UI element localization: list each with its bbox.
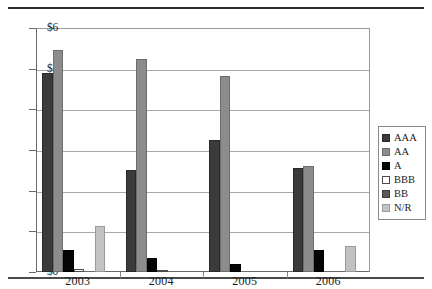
legend-swatch-icon [382,190,390,198]
legend-item-label: BBB [394,175,415,186]
bar-aa-2004 [136,59,147,273]
y-axis-tick [29,150,36,151]
x-axis-tick-label: 2006 [287,275,371,287]
x-axis-tick-label: 2004 [120,275,204,287]
legend-item-label: AAA [394,133,417,144]
legend: AAAAAABBBBBN/R [378,126,426,220]
legend-item-aaa[interactable]: AAA [382,131,423,145]
y-axis-tick [29,272,36,273]
bar-group [287,28,371,272]
legend-item-label: N/R [394,203,412,214]
bar-aaa-2006 [293,168,304,272]
x-axis-tick-label: 2005 [203,275,287,287]
legend-swatch-icon [382,204,390,212]
bar-series-layer [36,28,370,272]
x-axis-tick [120,272,121,278]
legend-swatch-icon [382,134,390,142]
legend-item-label: AA [394,147,409,158]
x-axis-tick [203,272,204,278]
x-axis-tick [287,272,288,278]
legend-item-label: BB [394,189,408,200]
bar-bbb-2003 [74,269,85,272]
x-axis-tick-label: 2003 [36,275,120,287]
legend-item-aa[interactable]: AA [382,145,423,159]
legend-item-label: A [394,161,402,172]
bar-aa-2006 [303,166,314,272]
bar-chart: $0$1$2$3$4$5$6 2003200420052006 [0,14,432,272]
y-axis-tick [29,191,36,192]
bar-a-2004 [147,258,158,272]
y-axis-tick [29,231,36,232]
y-axis-tick [29,69,36,70]
legend-item-nr[interactable]: N/R [382,201,423,215]
bar-group [203,28,287,272]
bar-nr-2003 [95,226,106,272]
legend-item-a[interactable]: A [382,159,423,173]
bar-a-2006 [314,250,325,272]
chart-page: $0$1$2$3$4$5$6 2003200420052006 AAAAAABB… [0,0,432,289]
legend-swatch-icon [382,148,390,156]
bar-nr-2006 [345,246,356,272]
legend-item-bb[interactable]: BB [382,187,423,201]
bar-aaa-2003 [42,73,53,272]
bar-aa-2005 [220,76,231,272]
bar-group [36,28,120,272]
bar-group [120,28,204,272]
legend-swatch-icon [382,176,390,184]
bar-bbb-2004 [157,270,168,272]
y-axis-tick [29,28,36,29]
bar-aaa-2005 [209,140,220,272]
bar-a-2005 [230,264,241,272]
bar-aa-2003 [53,50,64,272]
y-axis-tick [29,109,36,110]
bar-a-2003 [63,250,74,272]
top-divider-rule [8,7,424,9]
bar-aaa-2004 [126,170,137,272]
legend-swatch-icon [382,162,390,170]
legend-item-bbb[interactable]: BBB [382,173,423,187]
